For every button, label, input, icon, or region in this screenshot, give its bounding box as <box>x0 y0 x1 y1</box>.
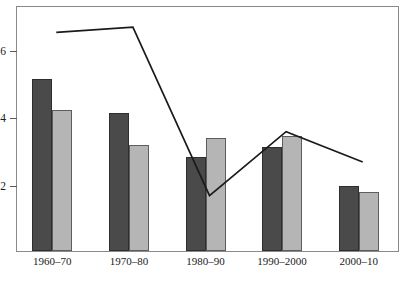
y-tick-6: 6 <box>10 51 17 52</box>
mexico-line-series <box>17 7 400 253</box>
x-tick-label-2: 1970–80 <box>110 256 149 267</box>
mexico-polyline <box>56 27 362 196</box>
chart-figure: Mexico Canada United States 246 1960–701… <box>0 0 414 283</box>
y-tick-2: 2 <box>10 186 17 187</box>
y-tick-label: 6 <box>0 46 6 58</box>
x-tick-label-5: 2000–10 <box>339 256 378 267</box>
y-tick-label: 4 <box>0 113 6 125</box>
x-tick-label-3: 1980–90 <box>186 256 225 267</box>
y-tick-4: 4 <box>10 118 17 119</box>
y-tick-label: 2 <box>0 181 6 193</box>
x-tick-label-1: 1960–70 <box>33 256 72 267</box>
plot-area: 246 <box>16 6 399 252</box>
x-tick-label-4: 1990–2000 <box>257 256 307 267</box>
